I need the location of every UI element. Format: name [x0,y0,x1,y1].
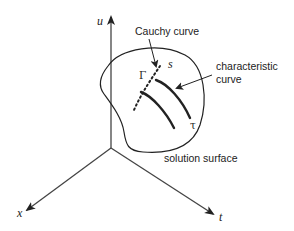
x-axis [27,148,111,210]
t-axis-label: t [219,210,223,224]
cauchy-curve-label: Cauchy curve [135,25,199,37]
characteristic-pointer-arrow [177,75,212,88]
tau-label: τ [190,119,196,131]
gamma-label: Γ [139,69,146,81]
solution-surface-label: solution surface [164,152,238,164]
cauchy-pointer-arrow [149,39,156,66]
s-label: s [168,57,173,71]
u-axis-label: u [97,14,103,28]
characteristic-label-line2: curve [216,73,242,85]
characteristic-curve-1 [156,80,190,118]
characteristic-diagram: u x t Cauchy curve characteristic curve … [0,0,294,231]
x-axis-label: x [16,206,23,220]
characteristic-label-line1: characteristic [216,60,278,72]
diagram-svg: u x t Cauchy curve characteristic curve … [0,0,294,231]
characteristic-curve-2 [141,92,174,128]
